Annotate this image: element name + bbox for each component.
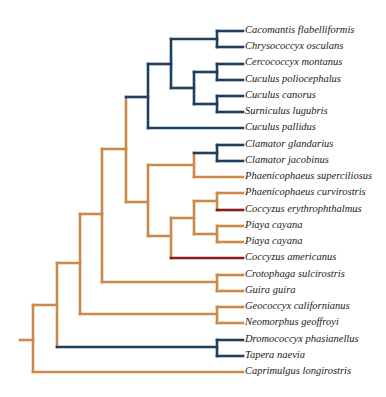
leaf-label: Crotophaga sulcirostris	[245, 268, 345, 280]
leaf-label: Cuculus canorus	[245, 89, 316, 101]
leaf-label: Geococcyx californianus	[245, 300, 350, 312]
leaf-label: Guira guira	[245, 284, 295, 296]
leaf-label: Piaya cayana	[245, 219, 302, 231]
leaf-label: Piaya cayana	[245, 235, 302, 247]
leaf-label: Dromococcyx phasianellus	[245, 333, 359, 345]
leaf-label: Tapera naevia	[245, 349, 305, 361]
leaf-label: Cuculus pallidus	[245, 121, 316, 133]
leaf-label: Neomorphus geoffroyi	[245, 316, 339, 328]
leaf-label: Cuculus poliocephalus	[245, 73, 341, 85]
leaf-label: Phaenicophaeus curvirostris	[245, 186, 366, 198]
leaf-label: Coccyzus americanus	[245, 251, 336, 263]
leaf-label: Coccyzus erythrophthalmus	[245, 203, 362, 215]
leaf-label: Clamator jacobinus	[245, 154, 329, 166]
leaf-label: Cacomantis flabelliformis	[245, 24, 354, 36]
leaf-label: Clamator glandarius	[245, 138, 333, 150]
leaf-label: Caprimulgus longirostris	[245, 365, 351, 377]
leaf-label: Surniculus lugubris	[245, 105, 328, 117]
leaf-label: Cercococcyx montanus	[245, 56, 342, 68]
leaf-label: Chrysococcyx osculans	[245, 40, 343, 52]
leaf-label: Phaenicophaeus superciliosus	[245, 170, 372, 182]
